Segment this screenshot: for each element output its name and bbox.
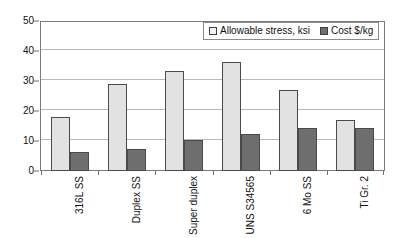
x-tick-mark: [270, 171, 271, 175]
bar: [165, 71, 184, 172]
x-tick-mark: [383, 171, 384, 175]
bar: [51, 117, 70, 171]
legend-entry: Allowable stress, ksi: [209, 26, 310, 36]
bar-group: [98, 22, 155, 171]
bar: [70, 152, 89, 171]
y-tick-label: 30: [23, 76, 34, 86]
bar: [279, 90, 298, 171]
x-axis-label: UNS S34565: [246, 176, 256, 234]
bar-group: [213, 22, 270, 171]
y-tick-mark: [34, 171, 39, 172]
x-axis-label: Duplex SS: [132, 176, 142, 223]
y-tick-label: 10: [23, 136, 34, 146]
y-tick-label: 20: [23, 106, 34, 116]
x-axis-label: 6 Mo SS: [303, 176, 313, 214]
x-axis-label: Super duplex: [189, 176, 199, 235]
bar: [241, 134, 260, 171]
legend-label: Allowable stress, ksi: [220, 26, 310, 36]
bar-group: [41, 22, 98, 171]
legend-swatch-icon: [209, 27, 217, 35]
bars-layer: [41, 22, 384, 171]
bar: [298, 128, 317, 171]
x-tick-mark: [41, 171, 42, 175]
legend-label: Cost $/kg: [331, 26, 373, 36]
bar: [184, 140, 203, 171]
x-tick-mark: [155, 171, 156, 175]
y-tick-label: 50: [23, 16, 34, 26]
y-tick-mark: [34, 81, 39, 82]
bar: [127, 149, 146, 171]
bar: [336, 120, 355, 171]
bar: [222, 62, 241, 172]
legend-swatch-icon: [320, 27, 328, 35]
y-tick-mark: [34, 141, 39, 142]
y-tick-mark: [34, 21, 39, 22]
y-tick-mark: [34, 51, 39, 52]
x-axis-labels: 316L SSDuplex SSSuper duplexUNS S345656 …: [41, 176, 384, 238]
bar-chart: 01020304050 316L SSDuplex SSSuper duplex…: [0, 0, 409, 238]
y-tick-mark: [34, 111, 39, 112]
y-axis: 01020304050: [0, 21, 34, 171]
bar-group: [327, 22, 384, 171]
x-tick-mark: [98, 171, 99, 175]
bar-group: [270, 22, 327, 171]
bar: [355, 128, 374, 172]
legend-entry: Cost $/kg: [320, 26, 373, 36]
bar-group: [155, 22, 212, 171]
bar: [108, 84, 127, 171]
y-tick-label: 40: [23, 46, 34, 56]
x-axis-label: 316L SS: [75, 176, 85, 214]
x-tick-mark: [213, 171, 214, 175]
x-tick-mark: [327, 171, 328, 175]
chart-legend: Allowable stress, ksiCost $/kg: [203, 22, 379, 40]
x-axis-label: Ti Gr. 2: [360, 176, 370, 208]
